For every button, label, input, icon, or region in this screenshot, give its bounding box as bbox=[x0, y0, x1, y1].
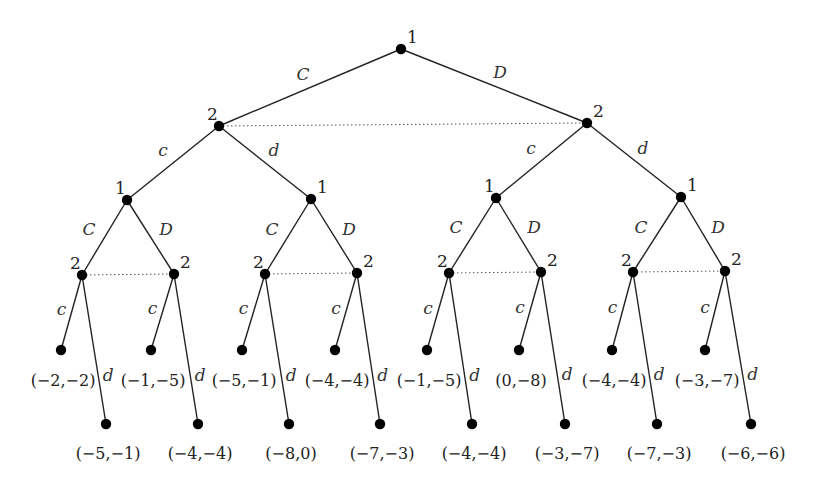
action-label-d: d bbox=[654, 364, 665, 384]
decision-node-player-2 bbox=[169, 269, 179, 279]
payoff-label: (−4,−4) bbox=[168, 444, 233, 463]
player-label: 1 bbox=[687, 175, 698, 195]
payoff-label: (−7,−3) bbox=[350, 444, 415, 463]
terminal-node bbox=[746, 419, 756, 429]
edge-d bbox=[633, 272, 657, 424]
action-label-D: D bbox=[341, 219, 356, 239]
player-label: 1 bbox=[484, 176, 495, 196]
action-label-d: d bbox=[286, 365, 297, 385]
action-label-d: d bbox=[562, 364, 573, 384]
action-label-c: c bbox=[608, 297, 618, 317]
terminal-node bbox=[560, 419, 570, 429]
payoff-label: (−2,−2) bbox=[31, 371, 96, 390]
tree-labels: CDcdcdCDCDCDCDcd(−2,−2)(−5,−1)cd(−1,−5)(… bbox=[31, 27, 786, 463]
payoff-label: (−4,−4) bbox=[305, 371, 370, 390]
action-label-c: c bbox=[239, 298, 249, 318]
information-set-line bbox=[449, 272, 541, 273]
action-label-c: c bbox=[148, 298, 158, 318]
terminal-node bbox=[700, 345, 710, 355]
terminal-node bbox=[284, 419, 294, 429]
action-label-c: c bbox=[158, 140, 168, 160]
player-label: 1 bbox=[317, 177, 328, 197]
player-label: 2 bbox=[731, 249, 742, 269]
player-label: 1 bbox=[407, 27, 418, 47]
payoff-label: (−5,−1) bbox=[76, 444, 141, 463]
decision-node-player-1 bbox=[676, 192, 686, 202]
payoff-label: (−8,0) bbox=[265, 444, 316, 463]
player-label: 2 bbox=[180, 252, 191, 272]
information-set-line bbox=[633, 271, 725, 272]
edge-c bbox=[127, 126, 219, 200]
payoff-label: (−1,−5) bbox=[397, 371, 462, 390]
terminal-node bbox=[193, 419, 203, 429]
decision-node-player-1 bbox=[306, 194, 316, 204]
terminal-node bbox=[375, 419, 385, 429]
player-label: 2 bbox=[70, 253, 81, 273]
player-label: 2 bbox=[621, 250, 632, 270]
terminal-node bbox=[607, 345, 617, 355]
player-label: 2 bbox=[207, 104, 218, 124]
terminal-node bbox=[237, 345, 247, 355]
action-label-c: c bbox=[700, 297, 710, 317]
player-label: 2 bbox=[363, 251, 374, 271]
information-set-line bbox=[82, 274, 174, 275]
action-label-d: d bbox=[638, 138, 649, 158]
edge-d bbox=[219, 126, 311, 199]
action-label-c: c bbox=[331, 298, 341, 318]
action-label-D: D bbox=[526, 217, 541, 237]
player-label: 2 bbox=[253, 252, 264, 272]
action-label-d: d bbox=[377, 365, 388, 385]
terminal-node bbox=[101, 419, 111, 429]
edge-d bbox=[587, 123, 681, 197]
terminal-node bbox=[56, 345, 66, 355]
edge-d bbox=[174, 274, 198, 424]
payoff-label: (0,−8) bbox=[495, 371, 546, 390]
payoff-label: (−4,−4) bbox=[582, 371, 647, 390]
terminal-node bbox=[330, 345, 340, 355]
edge-d bbox=[265, 274, 289, 424]
decision-node-player-2 bbox=[720, 266, 730, 276]
payoff-label: (−5,−1) bbox=[212, 371, 277, 390]
edge-c bbox=[496, 123, 587, 198]
terminal-node bbox=[146, 345, 156, 355]
edge-d bbox=[449, 273, 472, 424]
decision-node-player-2 bbox=[582, 118, 592, 128]
action-label-D: D bbox=[492, 62, 507, 82]
player-label: 2 bbox=[437, 251, 448, 271]
decision-node-player-2 bbox=[352, 268, 362, 278]
edge-d bbox=[82, 275, 106, 424]
payoff-label: (−7,−3) bbox=[627, 444, 692, 463]
information-set-line bbox=[219, 123, 587, 126]
terminal-node bbox=[422, 345, 432, 355]
action-label-c: c bbox=[423, 298, 433, 318]
action-label-C: C bbox=[634, 217, 647, 237]
action-label-c: c bbox=[57, 299, 67, 319]
action-label-C: C bbox=[296, 64, 309, 84]
action-label-c: c bbox=[515, 297, 525, 317]
terminal-node bbox=[467, 419, 477, 429]
player-label: 2 bbox=[547, 250, 558, 270]
edge-d bbox=[357, 273, 380, 424]
action-label-d: d bbox=[195, 365, 206, 385]
payoff-label: (−1,−5) bbox=[121, 371, 186, 390]
action-label-c: c bbox=[526, 138, 536, 158]
action-label-C: C bbox=[82, 219, 95, 239]
action-label-d: d bbox=[103, 365, 114, 385]
action-label-C: C bbox=[449, 217, 462, 237]
action-label-D: D bbox=[710, 217, 725, 237]
action-label-d: d bbox=[269, 140, 280, 160]
terminal-node bbox=[652, 419, 662, 429]
action-label-D: D bbox=[158, 219, 173, 239]
player-label: 1 bbox=[115, 178, 126, 198]
edge-d bbox=[725, 271, 751, 424]
information-set-line bbox=[265, 273, 357, 274]
game-tree-diagram: CDcdcdCDCDCDCDcd(−2,−2)(−5,−1)cd(−1,−5)(… bbox=[0, 0, 815, 493]
payoff-label: (−3,−7) bbox=[675, 371, 740, 390]
decision-node-player-1 bbox=[396, 44, 406, 54]
action-label-d: d bbox=[747, 364, 758, 384]
action-label-d: d bbox=[469, 365, 480, 385]
terminal-node bbox=[514, 345, 524, 355]
decision-node-player-2 bbox=[536, 267, 546, 277]
payoff-label: (−3,−7) bbox=[535, 444, 600, 463]
payoff-label: (−4,−4) bbox=[442, 444, 507, 463]
